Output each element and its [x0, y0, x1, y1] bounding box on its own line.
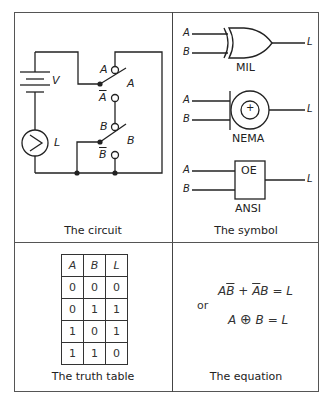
nema-output: L [307, 103, 313, 114]
eq-b: B [260, 284, 268, 298]
equation-caption: The equation [173, 370, 319, 383]
cell: 0 [106, 343, 128, 365]
cell: 1 [106, 299, 128, 321]
table-row: 0 0 0 [62, 277, 128, 299]
switch-a-contact-label: A [100, 63, 108, 76]
or-label: or [197, 299, 208, 312]
nema-input-a: A [183, 94, 190, 105]
switch-b-contact-label: B [100, 120, 108, 133]
switch-b-pole-label: B [127, 134, 135, 147]
ansi-input-a: A [183, 164, 190, 175]
cell: 1 [62, 321, 84, 343]
cell: 0 [84, 277, 106, 299]
cell: 1 [106, 321, 128, 343]
equation-line-1: AB + AB = L [218, 284, 293, 298]
xor-operator-icon: ⊕ [240, 311, 252, 327]
switch-b-bar-label: B [99, 148, 107, 161]
mil-xor-gate-icon [192, 28, 305, 58]
header-b: B [84, 255, 106, 277]
eq2-b: B [256, 313, 264, 327]
mil-input-b: B [183, 46, 190, 57]
eq-rhs: = L [269, 284, 293, 298]
ansi-input-b: B [183, 183, 190, 194]
mil-label: MIL [236, 61, 255, 74]
truth-table-header: A B L [62, 255, 128, 277]
circuit-caption: The circuit [14, 224, 172, 237]
truth-table: A B L 0 0 0 0 1 1 1 0 1 1 1 0 [61, 254, 128, 365]
cell: 0 [84, 321, 106, 343]
eq-a: A [218, 284, 226, 298]
truth-table-caption: The truth table [14, 370, 172, 383]
eq-plus: + [234, 284, 252, 298]
switch-a-bar-label: A [99, 91, 107, 104]
symbol-caption: The symbol [173, 224, 319, 237]
switch-a-pole-label: A [127, 77, 135, 90]
equation-line-2: A ⊕ B = L [228, 311, 288, 327]
cell: 1 [84, 299, 106, 321]
circuit-diagram [0, 0, 336, 408]
ansi-output: L [307, 173, 313, 184]
table-row: 1 1 0 [62, 343, 128, 365]
table-row: 0 1 1 [62, 299, 128, 321]
nema-input-b: B [183, 113, 190, 124]
mil-output: L [307, 36, 313, 47]
eq2-rhs: = L [264, 313, 288, 327]
voltage-label: V [52, 74, 60, 87]
mil-input-a: A [183, 27, 190, 38]
cell: 1 [62, 343, 84, 365]
table-row: 1 0 1 [62, 321, 128, 343]
cell: 0 [106, 277, 128, 299]
nema-plus-glyph: + [246, 102, 254, 113]
header-a: A [62, 255, 84, 277]
cell: 0 [62, 277, 84, 299]
ansi-label: ANSI [235, 202, 261, 215]
eq2-a: A [228, 313, 236, 327]
ansi-box-text: OE [241, 164, 257, 177]
header-l: L [106, 255, 128, 277]
nema-label: NEMA [232, 132, 264, 145]
cell: 1 [84, 343, 106, 365]
lamp-label: L [54, 136, 60, 149]
cell: 0 [62, 299, 84, 321]
